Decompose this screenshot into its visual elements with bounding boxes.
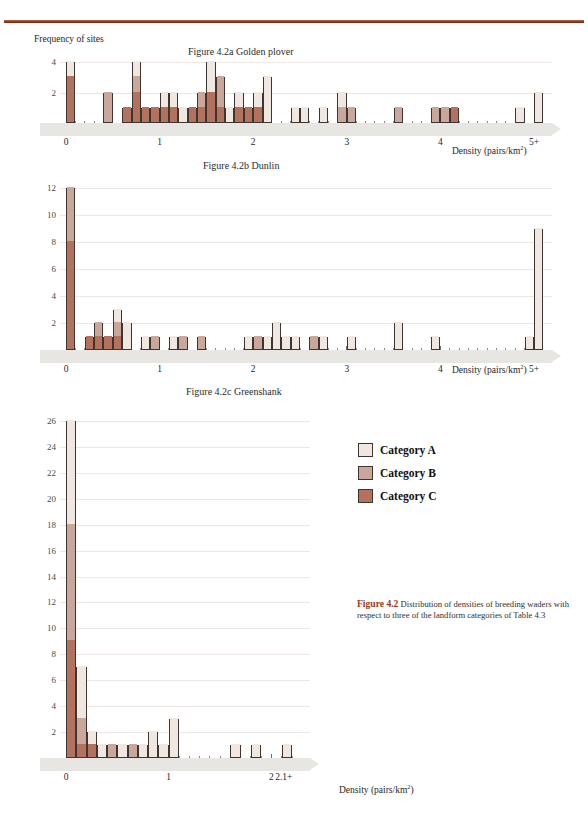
bar-segment	[142, 336, 149, 349]
x-axis-minor-tick	[94, 121, 95, 123]
bar-segment	[86, 336, 93, 349]
legend-item: Category A	[358, 443, 436, 457]
histogram-bar	[251, 745, 261, 758]
x-axis-band	[40, 758, 310, 771]
bar-segment	[95, 322, 102, 335]
x-axis-minor-tick	[234, 348, 235, 350]
x-axis-minor-tick	[412, 121, 413, 123]
histogram-bar	[150, 108, 159, 123]
x-axis-tick-label: 3	[331, 364, 363, 374]
y-axis-tick-label: 14	[28, 573, 56, 582]
histogram-bar	[431, 337, 440, 350]
x-axis-tick-label: 0	[50, 364, 82, 374]
y-axis-tick-label: 22	[28, 469, 56, 478]
gridline	[60, 473, 310, 474]
bar-segment	[320, 336, 327, 349]
gridline	[60, 296, 552, 297]
bar-segment	[451, 107, 458, 122]
bar-segment	[348, 336, 355, 349]
histogram-bar	[319, 337, 328, 350]
bar-segment	[198, 107, 205, 122]
bar-segment	[320, 107, 327, 122]
y-axis-tick-label: 8	[28, 238, 56, 247]
y-axis-tick-label: 4	[28, 292, 56, 301]
x-axis-tick-label: 3	[331, 137, 363, 147]
bar-segment	[67, 524, 75, 641]
bar-segment	[67, 61, 74, 76]
x-axis-major-tick	[271, 754, 272, 758]
histogram-bar	[525, 337, 534, 350]
histogram-bar	[178, 337, 187, 350]
bar-segment	[432, 336, 439, 349]
gridline	[60, 215, 552, 216]
bar-segment	[170, 718, 178, 757]
histogram-bar	[244, 337, 253, 350]
y-axis-tick-label: 2	[28, 319, 56, 328]
x-axis-minor-tick	[220, 756, 221, 758]
bar-segment	[67, 76, 74, 122]
histogram-bar	[66, 62, 75, 123]
x-axis-band-arrow	[552, 350, 561, 362]
histogram-bar	[113, 310, 122, 350]
legend-item: Category C	[358, 489, 437, 503]
bar-segment	[67, 640, 75, 757]
histogram-bar	[394, 323, 403, 350]
bar-segment	[245, 107, 252, 122]
bar-segment	[254, 92, 261, 107]
x-axis-minor-tick	[487, 348, 488, 350]
gridline	[60, 680, 310, 681]
x-axis-minor-tick	[515, 348, 516, 350]
bar-segment	[198, 92, 205, 107]
bar-segment	[292, 107, 299, 122]
x-axis-minor-tick	[365, 348, 366, 350]
histogram-bar	[431, 108, 440, 123]
gridline	[60, 525, 310, 526]
histogram-bar	[103, 337, 112, 350]
histogram-bar	[150, 337, 159, 350]
x-axis-band-arrow	[552, 123, 561, 135]
bar-segment	[226, 107, 233, 122]
gridline	[60, 447, 310, 448]
legend-label: Category C	[380, 490, 437, 502]
bar-segment	[441, 107, 448, 122]
x-axis-tick-label: 2	[237, 137, 269, 147]
x-axis-minor-tick	[496, 121, 497, 123]
gridline	[60, 654, 310, 655]
bar-segment	[88, 731, 96, 744]
x-axis-minor-tick	[487, 121, 488, 123]
histogram-bar	[138, 745, 148, 758]
bar-segment	[108, 744, 116, 757]
x-axis-minor-tick	[189, 756, 190, 758]
bar-segment	[235, 92, 242, 107]
bar-segment	[301, 107, 308, 122]
bar-segment	[245, 336, 252, 349]
y-axis-tick-label: 24	[28, 443, 56, 452]
bar-segment	[282, 336, 289, 349]
bar-segment	[159, 744, 167, 757]
x-axis-tick-label: 1	[153, 772, 185, 782]
histogram-bar	[234, 93, 243, 123]
y-axis-tick-label: 18	[28, 521, 56, 530]
histogram-bar	[66, 421, 76, 758]
x-axis-title-c: Density (pairs/km2)	[339, 783, 414, 795]
bar-segment	[151, 107, 158, 122]
histogram-bar	[347, 337, 356, 350]
histogram-bar	[158, 745, 168, 758]
bar-segment	[67, 187, 74, 241]
plot-area-a: 24012345+	[0, 34, 588, 159]
histogram-bar	[197, 93, 206, 123]
histogram-bar	[534, 93, 543, 123]
bar-segment	[77, 718, 85, 744]
x-axis-minor-tick	[84, 121, 85, 123]
bar-segment	[231, 744, 239, 757]
x-axis-minor-tick	[477, 121, 478, 123]
histogram-bar	[253, 93, 262, 123]
bar-segment	[129, 744, 137, 757]
bar-segment	[179, 107, 186, 122]
histogram-bar	[291, 108, 300, 123]
figure-page: Frequency of sites Figure 4.2a Golden pl…	[0, 0, 588, 838]
histogram-bar	[169, 719, 179, 758]
x-axis-minor-tick	[505, 348, 506, 350]
bar-segment	[235, 107, 242, 122]
bar-segment	[77, 744, 85, 757]
